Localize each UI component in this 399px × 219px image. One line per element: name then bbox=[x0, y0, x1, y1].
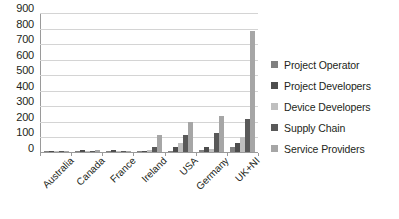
y-axis-tick-label: 900 bbox=[16, 3, 34, 13]
bar bbox=[95, 150, 100, 152]
bar bbox=[64, 151, 69, 152]
y-axis-tick-label: 400 bbox=[16, 81, 34, 91]
bar bbox=[188, 122, 193, 152]
bar-chart: 9008007006005004003002001000 AustraliaCa… bbox=[0, 0, 399, 219]
legend-swatch-icon bbox=[271, 103, 278, 110]
bar-groups bbox=[41, 13, 258, 152]
legend-item[interactable]: Device Developers bbox=[271, 96, 399, 117]
y-axis-tick-label: 800 bbox=[16, 19, 34, 29]
bar bbox=[250, 31, 255, 152]
y-axis-tick-label: 200 bbox=[16, 112, 34, 122]
bar-group bbox=[196, 13, 227, 152]
legend-label: Service Providers bbox=[284, 143, 365, 155]
bar-group bbox=[72, 13, 103, 152]
y-axis-tick-label: 500 bbox=[16, 65, 34, 75]
legend-label: Supply Chain bbox=[284, 122, 345, 134]
x-axis-category-label: Germany bbox=[194, 155, 231, 192]
bar bbox=[219, 116, 224, 152]
plot-area bbox=[40, 13, 258, 153]
x-axis-line bbox=[40, 152, 258, 153]
legend-item[interactable]: Service Providers bbox=[271, 138, 399, 159]
bar-group bbox=[41, 13, 72, 152]
x-axis-tickmark bbox=[258, 153, 259, 156]
y-axis-tick-label: 300 bbox=[16, 96, 34, 106]
y-axis: 9008007006005004003002001000 bbox=[0, 8, 34, 153]
y-axis-tick-label: 0 bbox=[28, 143, 34, 153]
legend-swatch-icon bbox=[271, 82, 278, 89]
legend-swatch-icon bbox=[271, 145, 278, 152]
bar-group bbox=[134, 13, 165, 152]
bar-group bbox=[227, 13, 258, 152]
legend-label: Device Developers bbox=[284, 101, 370, 113]
y-axis-tick-label: 600 bbox=[16, 50, 34, 60]
legend-label: Project Operator bbox=[284, 59, 359, 71]
legend-label: Project Developers bbox=[284, 80, 371, 92]
x-axis-category-label: France bbox=[108, 155, 138, 185]
y-axis-tick-label: 700 bbox=[16, 34, 34, 44]
x-axis-category-label: Ireland bbox=[139, 155, 168, 184]
bar-group bbox=[165, 13, 196, 152]
x-axis-category-label: Canada bbox=[74, 155, 107, 188]
legend-swatch-icon bbox=[271, 61, 278, 68]
x-axis-category-label: Australia bbox=[40, 155, 75, 190]
legend-swatch-icon bbox=[271, 124, 278, 131]
x-axis-category-labels: AustraliaCanadaFranceIrelandUSAGermanyUK… bbox=[40, 155, 258, 219]
chart-legend: Project OperatorProject DevelopersDevice… bbox=[271, 54, 399, 159]
bar-group bbox=[103, 13, 134, 152]
legend-item[interactable]: Project Operator bbox=[271, 54, 399, 75]
bar bbox=[157, 135, 162, 152]
bar bbox=[126, 151, 131, 152]
x-axis-category-label: UK+NI bbox=[233, 155, 262, 184]
x-axis-category-label: USA bbox=[178, 155, 200, 177]
y-axis-tick-label: 100 bbox=[16, 127, 34, 137]
legend-item[interactable]: Supply Chain bbox=[271, 117, 399, 138]
legend-item[interactable]: Project Developers bbox=[271, 75, 399, 96]
